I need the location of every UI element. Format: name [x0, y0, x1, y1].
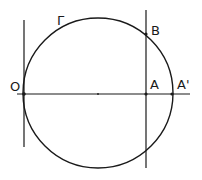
- point-o: [22, 92, 26, 96]
- label-a-prime: A': [177, 77, 189, 92]
- label-b: B: [151, 23, 160, 38]
- point-b: [144, 32, 147, 35]
- label-o: O: [10, 79, 20, 94]
- circle-gamma: [23, 18, 173, 168]
- point-a: [144, 92, 147, 95]
- center-tick: [97, 93, 99, 95]
- diagram-svg: Γ B O A A': [0, 0, 202, 180]
- geometry-diagram: Γ B O A A': [0, 0, 202, 180]
- point-a-prime: [170, 92, 173, 95]
- label-gamma: Γ: [57, 13, 65, 28]
- label-a: A: [150, 77, 159, 92]
